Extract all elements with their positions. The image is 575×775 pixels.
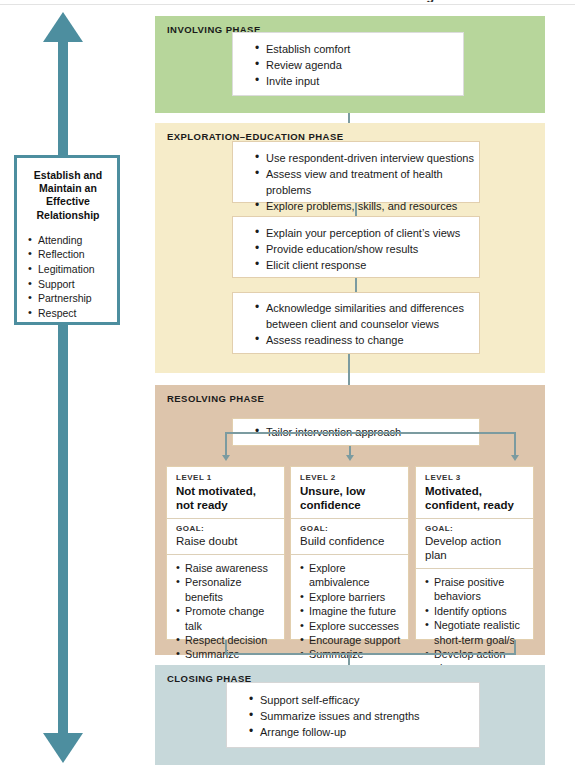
goal-label: GOAL: bbox=[300, 524, 400, 533]
involving-list: Establish comfort Review agenda Invite i… bbox=[255, 41, 463, 89]
resolving-phase-title: RESOLVING PHASE bbox=[167, 393, 264, 404]
connector-fanout-bus bbox=[225, 432, 515, 434]
level-3-header: LEVEL 3 Motivated, confident, ready bbox=[416, 467, 533, 519]
list-item: Legitimation bbox=[28, 262, 108, 277]
list-item: Identify options bbox=[425, 604, 528, 618]
list-item: Establish comfort bbox=[255, 41, 463, 57]
level-3-tag: LEVEL 3 bbox=[425, 473, 525, 482]
level-1-column: LEVEL 1 Not motivated, not ready GOAL: R… bbox=[166, 466, 285, 640]
list-item: Explore ambivalence bbox=[300, 561, 403, 590]
connector-arrowhead-icon bbox=[222, 455, 230, 461]
list-item: Explore barriers bbox=[300, 590, 403, 604]
exploration-list-3: Acknowledge similarities and differences… bbox=[255, 300, 479, 348]
relationship-box: Establish and Maintain an Effective Rela… bbox=[14, 155, 120, 325]
connector-ex2-to-ex3 bbox=[355, 278, 357, 292]
list-item: Summarize issues and strengths bbox=[249, 708, 479, 724]
relationship-list: Attending Reflection Legitimation Suppor… bbox=[28, 233, 108, 321]
list-item: Elicit client response bbox=[255, 257, 479, 273]
connector-ex1-to-ex2 bbox=[355, 203, 357, 216]
connector-arrowhead-icon bbox=[346, 455, 354, 461]
goal-text: Develop action plan bbox=[425, 534, 525, 562]
connector-merge-bus bbox=[225, 653, 516, 655]
connector-arrowhead-icon bbox=[511, 455, 519, 461]
list-item: Use respondent-driven interview question… bbox=[255, 150, 479, 166]
level-1-header: LEVEL 1 Not motivated, not ready bbox=[167, 467, 284, 519]
list-item: Support bbox=[28, 277, 108, 292]
list-item: Explore problems, skills, and resources bbox=[255, 198, 479, 214]
list-item: Partnership bbox=[28, 291, 108, 306]
exploration-card-1: Use respondent-driven interview question… bbox=[232, 141, 480, 203]
figure-title: FIGURE 9 Phases and Processes of Patient… bbox=[20, 0, 540, 2]
title-divider bbox=[0, 4, 575, 5]
level-2-column: LEVEL 2 Unsure, low confidence GOAL: Bui… bbox=[290, 466, 409, 640]
exploration-card-3: Acknowledge similarities and differences… bbox=[232, 292, 480, 354]
level-3-goal: GOAL: Develop action plan bbox=[416, 519, 533, 569]
level-2-name: Unsure, low confidence bbox=[300, 484, 400, 512]
relationship-heading: Establish and Maintain an Effective Rela… bbox=[28, 169, 108, 222]
list-item: Provide education/show results bbox=[255, 241, 479, 257]
level-3-list: Praise positive behaviors Identify optio… bbox=[425, 575, 528, 676]
list-item: Assess readiness to change bbox=[255, 332, 479, 348]
list-item: Acknowledge similarities and differences… bbox=[255, 300, 479, 332]
list-item-continuation: between client and counselor views bbox=[266, 316, 479, 332]
list-item: Praise positive behaviors bbox=[425, 575, 528, 604]
exploration-card-2: Explain your perception of client’s view… bbox=[232, 216, 480, 278]
exploration-list-1: Use respondent-driven interview question… bbox=[255, 150, 479, 214]
list-item-continuation: behaviors bbox=[434, 589, 528, 603]
arrow-down-icon bbox=[43, 733, 83, 763]
list-item: Invite input bbox=[255, 73, 463, 89]
goal-text: Raise doubt bbox=[176, 534, 276, 548]
level-2-goal: GOAL: Build confidence bbox=[291, 519, 408, 555]
level-1-tag: LEVEL 1 bbox=[176, 473, 276, 482]
list-item: Review agenda bbox=[255, 57, 463, 73]
list-item: Personalize benefits bbox=[176, 575, 279, 604]
level-3-actions: Praise positive behaviors Identify optio… bbox=[416, 569, 533, 676]
list-item: Reflection bbox=[28, 247, 108, 262]
list-item: Respect bbox=[28, 306, 108, 321]
list-item: Assess view and treatment of health prob… bbox=[255, 166, 479, 198]
level-2-tag: LEVEL 2 bbox=[300, 473, 400, 482]
closing-phase-card: Support self-efficacy Summarize issues a… bbox=[226, 682, 480, 748]
list-item: Negotiate realistic short-term goal/s bbox=[425, 618, 528, 647]
list-item: Imagine the future bbox=[300, 604, 403, 618]
list-item: Support self-efficacy bbox=[249, 692, 479, 708]
list-item: Arrange follow-up bbox=[249, 724, 479, 740]
list-item: Attending bbox=[28, 233, 108, 248]
level-2-header: LEVEL 2 Unsure, low confidence bbox=[291, 467, 408, 519]
list-item: Encourage support bbox=[300, 633, 403, 647]
goal-text: Build confidence bbox=[300, 534, 400, 548]
list-item: Promote change talk bbox=[176, 604, 279, 633]
list-item: Raise awareness bbox=[176, 561, 279, 575]
level-1-goal: GOAL: Raise doubt bbox=[167, 519, 284, 555]
level-3-column: LEVEL 3 Motivated, confident, ready GOAL… bbox=[415, 466, 534, 640]
exploration-list-2: Explain your perception of client’s view… bbox=[255, 225, 479, 273]
list-item: Explain your perception of client’s view… bbox=[255, 225, 479, 241]
list-item: Respect decision bbox=[176, 633, 279, 647]
goal-label: GOAL: bbox=[425, 524, 525, 533]
level-1-name: Not motivated, not ready bbox=[176, 484, 276, 512]
closing-list: Support self-efficacy Summarize issues a… bbox=[249, 692, 479, 740]
involving-phase-card: Establish comfort Review agenda Invite i… bbox=[232, 32, 464, 96]
list-item: Explore successes bbox=[300, 619, 403, 633]
level-3-name: Motivated, confident, ready bbox=[425, 484, 525, 512]
goal-label: GOAL: bbox=[176, 524, 276, 533]
